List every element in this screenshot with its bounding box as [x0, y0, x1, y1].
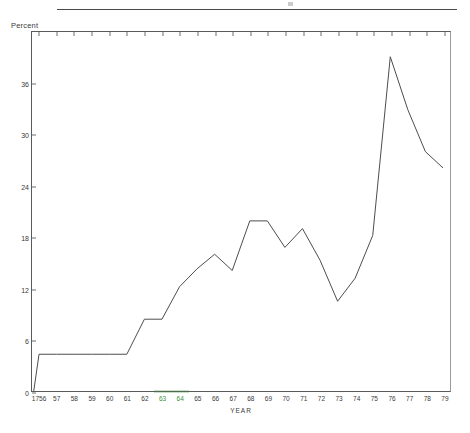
x-tick-mark [162, 32, 163, 36]
x-tick-label: 72 [318, 395, 325, 402]
line-series [32, 32, 450, 391]
y-tick-mark [32, 83, 36, 84]
x-tick-mark [56, 32, 57, 36]
x-tick-mark [303, 32, 304, 36]
page-artifact-mark [288, 2, 293, 6]
x-tick-mark [339, 32, 340, 36]
chart-page: Percent YEAR 061218243036175657585960616… [0, 0, 470, 433]
x-tick-label: 58 [71, 395, 78, 402]
x-tick-mark [444, 32, 445, 36]
y-tick-label: 36 [21, 80, 29, 87]
x-tick-mark [233, 32, 234, 36]
x-tick-label: 1756 [32, 395, 46, 402]
x-tick-label: 73 [335, 395, 342, 402]
x-tick-mark [215, 32, 216, 36]
x-axis-highlight-band [154, 390, 190, 393]
x-tick-label: 62 [141, 395, 148, 402]
x-tick-mark [39, 32, 40, 36]
x-tick-label: 59 [88, 395, 95, 402]
x-tick-label: 63 [159, 395, 166, 402]
x-tick-label: 74 [353, 395, 360, 402]
x-tick-label: 75 [371, 395, 378, 402]
y-tick-mark [32, 341, 36, 342]
x-tick-mark [127, 32, 128, 36]
x-tick-label: 66 [212, 395, 219, 402]
x-tick-label: 61 [124, 395, 131, 402]
x-tick-mark [109, 32, 110, 36]
y-tick-mark [32, 186, 36, 187]
y-tick-label: 18 [21, 235, 29, 242]
y-tick-mark [32, 238, 36, 239]
x-tick-mark [92, 32, 93, 36]
x-tick-mark [374, 32, 375, 36]
y-tick-label: 0 [25, 390, 29, 397]
x-tick-label: 78 [424, 395, 431, 402]
x-tick-mark [286, 32, 287, 36]
y-tick-mark [32, 289, 36, 290]
y-tick-label: 24 [21, 183, 29, 190]
series-path [34, 57, 443, 391]
x-tick-label: 70 [282, 395, 289, 402]
plot-area: YEAR 06121824303617565758596061626364656… [31, 31, 451, 392]
y-tick-label: 30 [21, 132, 29, 139]
x-tick-label: 68 [247, 395, 254, 402]
x-axis-title: YEAR [32, 407, 450, 414]
x-tick-label: 79 [441, 395, 448, 402]
x-tick-mark [250, 32, 251, 36]
x-tick-label: 77 [406, 395, 413, 402]
x-tick-label: 69 [265, 395, 272, 402]
x-tick-mark [74, 32, 75, 36]
page-divider-rule [57, 9, 457, 10]
y-tick-mark [32, 135, 36, 136]
x-tick-mark [197, 32, 198, 36]
x-tick-label: 76 [388, 395, 395, 402]
x-tick-label: 60 [106, 395, 113, 402]
x-tick-mark [268, 32, 269, 36]
y-tick-label: 12 [21, 286, 29, 293]
x-tick-label: 64 [177, 395, 184, 402]
x-tick-mark [356, 32, 357, 36]
x-tick-mark [321, 32, 322, 36]
y-axis-title: Percent [11, 21, 38, 30]
x-tick-mark [180, 32, 181, 36]
x-tick-label: 67 [230, 395, 237, 402]
x-tick-mark [409, 32, 410, 36]
x-tick-label: 57 [53, 395, 60, 402]
x-tick-mark [392, 32, 393, 36]
y-tick-label: 6 [25, 338, 29, 345]
x-tick-label: 71 [300, 395, 307, 402]
x-tick-label: 65 [194, 395, 201, 402]
y-tick-mark [32, 393, 36, 394]
x-tick-mark [144, 32, 145, 36]
x-tick-mark [427, 32, 428, 36]
